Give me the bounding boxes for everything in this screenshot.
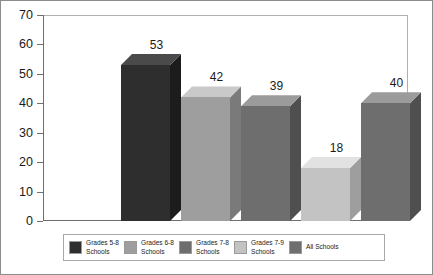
y-axis-tick: [37, 221, 43, 222]
legend-item[interactable]: Grades 6-8 Schools: [124, 239, 174, 255]
bar-chart-figure: 706050403020100 5342391840 Grades 5-8 Sc…: [0, 0, 433, 275]
y-axis-tick-label: 30: [3, 126, 33, 139]
chart-legend: Grades 5-8 SchoolsGrades 6-8 SchoolsGrad…: [63, 234, 385, 261]
y-axis-tick-label: 50: [3, 68, 33, 81]
y-axis-tick-label: 60: [3, 38, 33, 51]
legend-item-label: All Schools: [306, 243, 339, 251]
bar: [301, 157, 361, 221]
bar-side-face: [290, 95, 301, 221]
bar-front-face: [181, 97, 230, 221]
bar-value-label: 39: [252, 80, 301, 92]
bar-value-label: 40: [372, 77, 421, 89]
y-axis-tick-label: 20: [3, 156, 33, 169]
legend-item-label: Grades 5-8 Schools: [86, 239, 119, 255]
bar-side-face: [170, 54, 181, 221]
legend-item-label: Grades 7-9 Schools: [251, 239, 284, 255]
legend-swatch-icon: [179, 241, 192, 254]
legend-swatch-icon: [124, 241, 137, 254]
y-axis-tick-label: 40: [3, 97, 33, 110]
bar-value-label: 53: [132, 39, 181, 51]
bar-front-face: [361, 103, 410, 221]
legend-item-label: Grades 7-8 Schools: [196, 239, 229, 255]
bar-value-label: 18: [312, 142, 361, 154]
legend-swatch-icon: [69, 241, 82, 254]
bar-side-face: [350, 157, 361, 221]
legend-swatch-icon: [234, 241, 247, 254]
legend-item[interactable]: Grades 7-9 Schools: [234, 239, 284, 255]
legend-swatch-icon: [289, 241, 302, 254]
y-axis-tick-label: 10: [3, 185, 33, 198]
bar-value-label: 42: [192, 71, 241, 83]
bar-side-face: [410, 92, 421, 221]
legend-item[interactable]: Grades 7-8 Schools: [179, 239, 229, 255]
bar: [181, 86, 241, 221]
legend-item-label: Grades 6-8 Schools: [141, 239, 174, 255]
legend-item[interactable]: All Schools: [289, 241, 339, 254]
bar-front-face: [301, 168, 350, 221]
legend-item[interactable]: Grades 5-8 Schools: [69, 239, 119, 255]
y-axis-tick-label: 70: [3, 9, 33, 22]
y-axis-tick-label: 0: [3, 215, 33, 228]
bar-side-face: [230, 86, 241, 221]
bar: [121, 54, 181, 221]
bar: [241, 95, 301, 221]
bar: [361, 92, 421, 221]
bars-container: 5342391840: [43, 15, 408, 221]
bar-front-face: [121, 65, 170, 221]
bar-front-face: [241, 106, 290, 221]
